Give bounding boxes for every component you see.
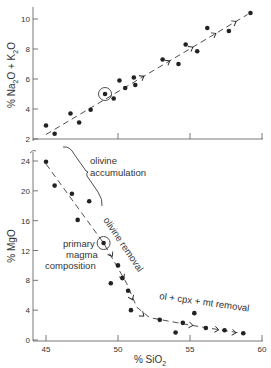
data-point (241, 331, 246, 336)
x-tick-label: 45 (42, 345, 51, 354)
trend-line (46, 15, 248, 135)
data-point (132, 75, 137, 80)
arrowhead-icon (188, 44, 195, 51)
data-point (87, 199, 92, 204)
y-tick-label: 24 (21, 157, 30, 166)
annotation-label: magma (66, 249, 98, 260)
arrowhead-icon (188, 322, 193, 329)
annotation-label: accumulation (90, 167, 146, 178)
data-point (52, 131, 57, 136)
y-tick-label: 12 (21, 247, 30, 256)
data-point (88, 107, 93, 112)
data-point (75, 218, 80, 223)
y-tick-label: 6 (26, 75, 31, 84)
data-point (181, 321, 186, 326)
y-tick-label: 0 (26, 336, 31, 345)
annotation-label: ol + cpx + mt removal (159, 290, 250, 314)
data-point (183, 42, 188, 47)
data-point (133, 83, 138, 88)
data-point (126, 288, 131, 293)
data-point (44, 123, 49, 128)
annotation-label: primary (63, 238, 95, 249)
arrowhead-icon (232, 329, 237, 336)
top-y-axis-label: % Na2O + K2O (6, 42, 19, 108)
data-point (123, 86, 128, 91)
arrowhead-icon (139, 311, 146, 318)
annotation-label: olivine (90, 155, 117, 166)
y-tick-label: 4 (26, 105, 31, 114)
top-chart-na2o-k2o: 246810 (21, 7, 263, 144)
axis-labels: % Na2O + K2O % MgO % SiO2 (6, 42, 166, 367)
x-tick-label: 60 (258, 345, 267, 354)
annotation-label: olivine removal (101, 215, 146, 274)
data-point (129, 308, 134, 313)
data-point (109, 281, 114, 286)
y-tick-label: 20 (21, 187, 30, 196)
data-point (195, 49, 200, 54)
annotation-label: composition (45, 260, 96, 271)
data-point (117, 78, 122, 83)
data-point (116, 263, 121, 268)
data-point (52, 183, 57, 188)
data-point (248, 11, 253, 16)
data-point (120, 276, 125, 281)
y-tick-label: 2 (26, 135, 31, 144)
data-point (68, 111, 73, 116)
chart-canvas: 246810 0481216202445505560olivineaccumul… (0, 0, 271, 368)
data-point (176, 62, 181, 67)
data-point (205, 26, 210, 31)
x-tick-label: 55 (186, 345, 195, 354)
y-tick-label: 8 (26, 276, 31, 285)
data-point (103, 92, 108, 97)
x-tick-label: 50 (114, 345, 123, 354)
bottom-chart-mgo: 0481216202445505560olivineaccumulationol… (21, 147, 267, 354)
data-point (160, 57, 165, 62)
y-tick-label: 16 (21, 217, 30, 226)
data-point (192, 311, 197, 316)
bottom-y-axis-label: % MgO (6, 229, 17, 263)
y-tick-label: 10 (21, 15, 30, 24)
data-point (70, 192, 75, 197)
figure: 246810 0481216202445505560olivineaccumul… (0, 0, 271, 368)
data-point (77, 120, 82, 125)
data-point (204, 326, 209, 331)
data-point (111, 96, 116, 101)
data-point (222, 328, 227, 333)
data-point (173, 330, 178, 335)
data-point (101, 241, 106, 246)
data-point (44, 159, 49, 164)
x-axis-label: % SiO2 (134, 354, 166, 367)
data-point (227, 29, 232, 34)
y-tick-label: 8 (26, 45, 31, 54)
y-tick-label: 4 (26, 306, 31, 315)
data-point (157, 318, 162, 323)
